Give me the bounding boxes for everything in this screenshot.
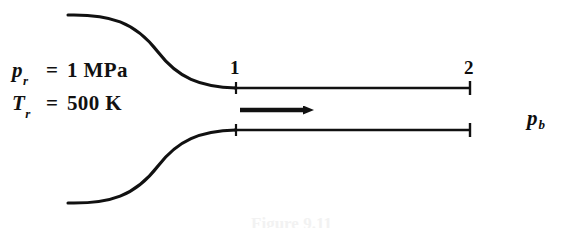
- lower-wall-curve: [68, 130, 236, 203]
- back-pressure-label: pb: [527, 108, 544, 129]
- back-pressure-symbol: p: [527, 106, 538, 130]
- reservoir-temperature-symbol: Tr: [12, 91, 46, 119]
- reservoir-pressure-equals: =: [46, 58, 67, 83]
- reservoir-pressure-value: 1 MPa: [67, 58, 128, 83]
- station-1-label: 1: [230, 58, 240, 77]
- reservoir-pressure-equation: pr = 1 MPa: [12, 58, 182, 91]
- reservoir-pressure-symbol: pr: [12, 58, 46, 86]
- reservoir-temperature-value: 500 K: [67, 91, 122, 116]
- station-2-label: 2: [464, 58, 474, 77]
- reservoir-temperature-equals: =: [46, 91, 67, 116]
- reservoir-conditions-block: pr = 1 MPa Tr = 500 K: [12, 58, 182, 124]
- reservoir-temperature-equation: Tr = 500 K: [12, 91, 182, 124]
- figure-caption: Figure 9.11: [0, 214, 583, 228]
- reservoir-temperature-subscript: r: [25, 106, 31, 121]
- reservoir-pressure-subscript: r: [23, 73, 29, 88]
- back-pressure-subscript: b: [539, 117, 546, 132]
- nozzle-figure: pr = 1 MPa Tr = 500 K 1 2 pb Figure 9.11: [0, 0, 583, 228]
